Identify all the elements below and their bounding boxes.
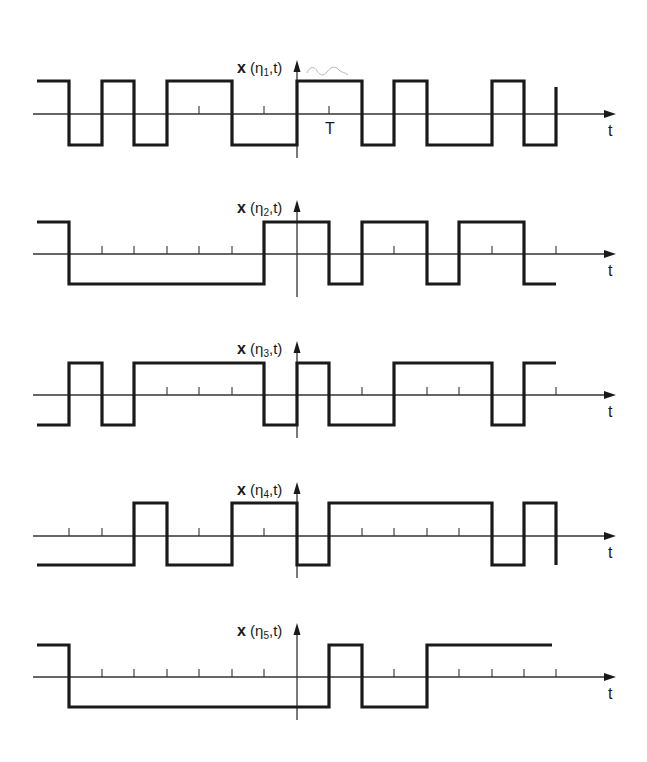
t-axis-arrow-icon [604, 532, 616, 540]
signal-label: x (η4,t) [237, 481, 282, 500]
period-T-label: T [325, 120, 335, 137]
y-axis-arrow-icon [294, 60, 301, 72]
signal-panel-5: tx (η5,t) [33, 622, 616, 720]
random-binary-process-diagram: tTx (η1,t)tx (η2,t)tx (η3,t)tx (η4,t)tx … [0, 0, 647, 762]
square-wave-signal [37, 503, 556, 565]
t-axis-label: t [608, 685, 613, 702]
square-wave-signal [37, 81, 556, 145]
y-axis-arrow-icon [294, 200, 301, 212]
t-axis-arrow-icon [604, 391, 616, 399]
y-axis-arrow-icon [294, 623, 301, 635]
y-axis-arrow-icon [294, 482, 301, 494]
t-axis-label: t [608, 262, 613, 279]
panels-group: tTx (η1,t)tx (η2,t)tx (η3,t)tx (η4,t)tx … [33, 59, 616, 720]
t-axis-label: t [608, 544, 613, 561]
t-axis-arrow-icon [604, 110, 616, 118]
t-axis-label: t [608, 122, 613, 139]
signal-label: x (η1,t) [237, 59, 282, 78]
t-axis-arrow-icon [604, 250, 616, 258]
signal-panel-4: tx (η4,t) [33, 481, 616, 578]
signal-label: x (η5,t) [237, 622, 282, 641]
t-axis-arrow-icon [604, 673, 616, 681]
signal-panel-2: tx (η2,t) [33, 199, 616, 297]
y-axis-arrow-icon [294, 341, 301, 353]
square-wave-signal [37, 363, 556, 425]
signal-panel-3: tx (η3,t) [33, 340, 616, 438]
pencil-scribble [307, 67, 348, 75]
t-axis-label: t [608, 403, 613, 420]
signal-label: x (η3,t) [237, 340, 282, 359]
signal-label: x (η2,t) [237, 199, 282, 218]
square-wave-signal [37, 645, 552, 707]
